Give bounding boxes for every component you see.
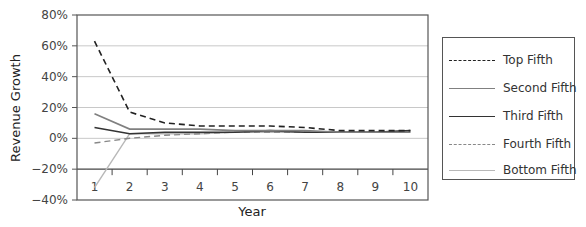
legend-item-top-fifth: Top Fifth [449,50,553,70]
x-tick-label: 4 [196,180,204,194]
legend-item-second-fifth: Second Fifth [449,78,577,98]
legend-item-fourth-fifth: Fourth Fifth [449,134,571,154]
y-tick-label: 40% [41,70,68,84]
x-axis: 12345678910 [77,169,428,194]
legend-item-third-fifth: Third Fifth [449,106,563,126]
x-tick-label: 5 [231,180,239,194]
series-line-bottom-fifth [95,132,411,188]
x-tick-label: 9 [372,180,380,194]
series-line-top-fifth [95,41,411,130]
legend-label: Bottom Fifth [503,163,577,177]
x-tick-label: 3 [161,180,169,194]
y-axis-tick-labels: 80%60%40%20%0%−20%−40% [31,8,77,207]
y-tick-label: 80% [41,8,68,22]
legend: Top Fifth Second Fifth Third Fifth Fourt… [442,37,575,180]
x-tick-label: 7 [301,180,309,194]
x-tick-label: 10 [403,180,418,194]
y-tick-label: −40% [31,193,68,207]
x-tick-label: 6 [266,180,274,194]
y-tick-label: 20% [41,101,68,115]
legend-label: Third Fifth [503,109,563,123]
y-axis-title: Revenue Growth [8,54,23,162]
y-tick-label: 60% [41,39,68,53]
gridlines [77,46,428,139]
legend-label: Fourth Fifth [503,137,571,151]
y-tick-label: −20% [31,162,68,176]
legend-label: Second Fifth [503,81,577,95]
x-tick-label: 8 [336,180,344,194]
legend-swatch-solid-light [449,170,495,171]
legend-swatch-solid-gray [449,88,495,89]
data-series [95,41,411,188]
legend-swatch-solid-dark [449,116,495,117]
y-tick-label: 0% [49,131,68,145]
legend-label: Top Fifth [503,53,553,67]
x-tick-label: 2 [126,180,134,194]
x-axis-title: Year [237,204,266,219]
legend-swatch-dashed-gray [449,144,495,145]
legend-item-bottom-fifth: Bottom Fifth [449,160,577,180]
legend-swatch-dashed-dark [449,60,495,61]
